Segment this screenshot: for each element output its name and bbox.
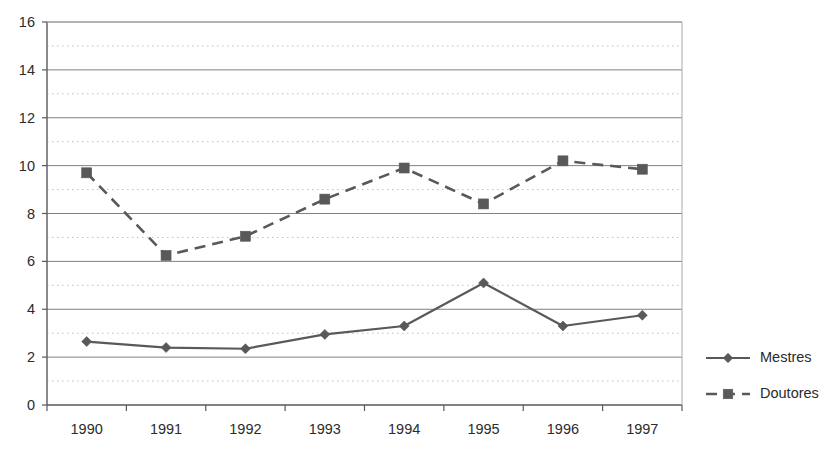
y-tick-label: 16 bbox=[19, 14, 35, 30]
square-marker bbox=[558, 156, 568, 166]
x-tick-label: 1996 bbox=[547, 421, 579, 437]
x-tick-label: 1992 bbox=[229, 421, 261, 437]
y-tick-label: 8 bbox=[27, 206, 35, 222]
square-marker bbox=[320, 194, 330, 204]
y-tick-label: 10 bbox=[19, 158, 35, 174]
y-tick-label: 0 bbox=[27, 397, 35, 413]
legend-label: Doutores bbox=[760, 385, 819, 401]
square-marker bbox=[479, 199, 489, 209]
y-tick-label: 4 bbox=[27, 301, 35, 317]
legend-label: Mestres bbox=[760, 349, 812, 365]
chart-background bbox=[0, 0, 833, 450]
square-marker bbox=[637, 164, 647, 174]
square-marker bbox=[399, 163, 409, 173]
y-tick-label: 2 bbox=[27, 349, 35, 365]
x-tick-label: 1994 bbox=[388, 421, 420, 437]
x-tick-label: 1993 bbox=[309, 421, 341, 437]
square-marker bbox=[161, 250, 171, 260]
x-tick-label: 1995 bbox=[467, 421, 499, 437]
y-tick-label: 14 bbox=[19, 62, 35, 78]
line-chart: 0246810121416 19901991199219931994199519… bbox=[0, 0, 833, 450]
square-marker bbox=[82, 168, 92, 178]
y-tick-label: 6 bbox=[27, 253, 35, 269]
chart-canvas: 0246810121416 19901991199219931994199519… bbox=[0, 0, 833, 450]
square-marker bbox=[240, 231, 250, 241]
y-tick-label: 12 bbox=[19, 110, 35, 126]
square-marker bbox=[723, 389, 733, 399]
x-tick-label: 1991 bbox=[150, 421, 182, 437]
x-tick-label: 1990 bbox=[71, 421, 103, 437]
x-tick-label: 1997 bbox=[626, 421, 658, 437]
